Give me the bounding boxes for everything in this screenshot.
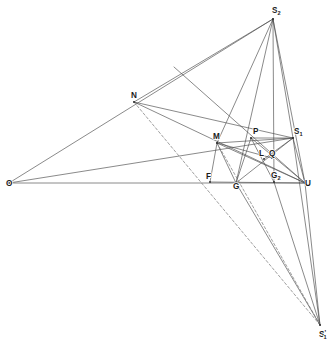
dashed-segment-M-S1p	[217, 143, 320, 325]
vertex-dot-F	[209, 181, 211, 183]
point-label-O: O	[6, 179, 13, 188]
segment-O-S1	[9, 138, 293, 183]
segment-S2-S1	[273, 19, 293, 138]
point-label-N: N	[131, 91, 137, 100]
vertex-dot-S1	[292, 137, 294, 139]
segment-S2-U	[273, 19, 305, 183]
vertex-dot-S2	[272, 18, 274, 20]
segment-M-F	[210, 143, 217, 182]
segment-P-G	[236, 138, 251, 183]
point-label-group: ONMPS1S2S'1LQFGG2U	[6, 6, 327, 340]
vertex-dot-L	[263, 158, 265, 160]
point-label-M: M	[213, 132, 220, 141]
dashed-segment-N-S1p	[134, 102, 320, 325]
point-label-G2: G2	[271, 171, 281, 181]
point-label-Q: Q	[269, 149, 276, 158]
segment-G2-S1p	[274, 182, 320, 325]
geometry-figure: ONMPS1S2S'1LQFGG2U	[0, 0, 334, 342]
point-label-S1p: S'1	[319, 329, 327, 341]
segment-O-S2	[9, 19, 273, 183]
segment-S2-M	[217, 19, 273, 143]
point-label-P: P	[253, 127, 259, 136]
segment-S1-U	[293, 138, 305, 183]
vertex-dot-M	[216, 142, 218, 144]
vertex-dot-N	[133, 101, 135, 103]
segment-T-U	[174, 67, 305, 183]
vertex-dot-S1p	[319, 324, 321, 326]
point-label-F: F	[206, 172, 211, 181]
segment-N-U	[134, 102, 305, 183]
vertex-dot-G2	[273, 181, 275, 183]
point-label-S2: S2	[272, 6, 281, 16]
segment-N-S2	[134, 19, 273, 102]
point-label-G: G	[233, 182, 239, 191]
point-label-U: U	[305, 179, 311, 188]
geometry-canvas: ONMPS1S2S'1LQFGG2U	[0, 0, 334, 342]
point-label-L: L	[259, 149, 264, 158]
vertex-dot-P	[250, 137, 252, 139]
dashed-line-group	[134, 102, 320, 325]
segment-S1-S1p	[293, 138, 320, 325]
point-label-S1: S1	[294, 127, 303, 137]
